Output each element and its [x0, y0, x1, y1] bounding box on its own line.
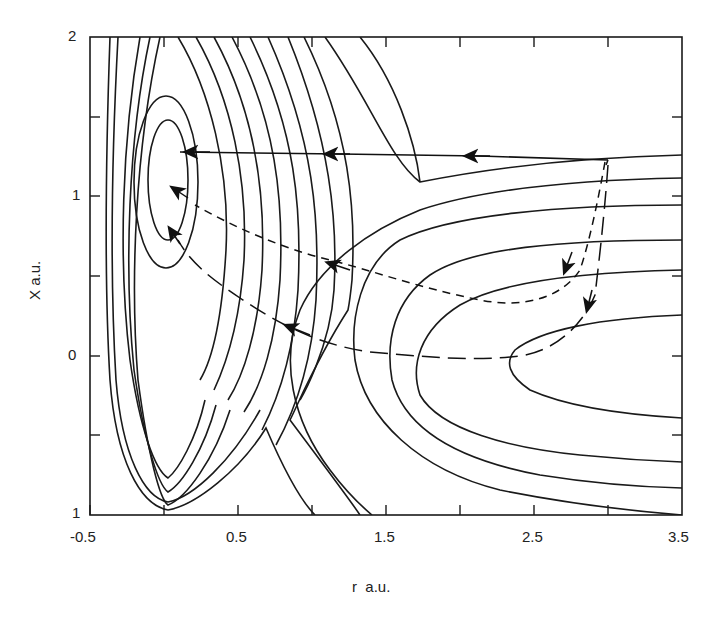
y-tick-label-1: 1 — [72, 186, 80, 203]
x-tick-label-0-5: 0.5 — [226, 528, 247, 545]
x-tick-label-1-5: 1.5 — [374, 528, 395, 545]
x-axis-label: r a.u. — [352, 578, 390, 595]
contour-lines — [106, 37, 682, 515]
y-tick-label-neg1: 1 — [72, 504, 80, 521]
x-tick-label-2-5: 2.5 — [522, 528, 543, 545]
x-ticks — [90, 37, 608, 515]
trajectories — [172, 152, 608, 359]
contour-plot — [0, 0, 727, 623]
plot-frame — [90, 37, 682, 515]
y-axis-label: X a.u. — [26, 261, 43, 300]
x-tick-label-neg0-5: -0.5 — [70, 528, 96, 545]
solid-trajectory — [180, 152, 608, 160]
y-tick-label-0: 0 — [68, 346, 76, 363]
x-tick-label-3-5: 3.5 — [668, 528, 689, 545]
y-tick-label-2: 2 — [68, 27, 76, 44]
y-ticks — [90, 117, 682, 435]
contour-figure: 2 1 0 1 -0.5 0.5 1.5 2.5 3.5 X a.u. r a.… — [0, 0, 727, 623]
short-dashed-trajectory — [195, 162, 605, 303]
